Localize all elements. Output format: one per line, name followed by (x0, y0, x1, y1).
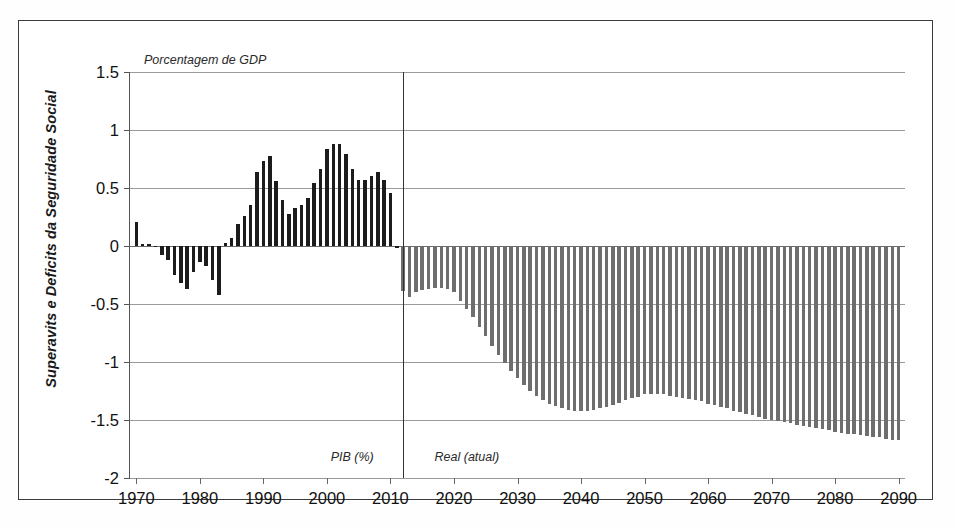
bar (897, 246, 900, 440)
bar (586, 246, 589, 411)
bar (497, 246, 500, 355)
bar (871, 246, 874, 437)
bar (440, 246, 443, 288)
x-tick-label: 2040 (563, 489, 600, 508)
bar (738, 246, 741, 412)
figure-frame: Superavits e Deficits da Seguridade Soci… (18, 20, 933, 500)
bar (147, 244, 151, 246)
bar (630, 246, 633, 398)
bar (370, 176, 374, 246)
bar (687, 246, 690, 399)
bar (617, 246, 620, 403)
bar (643, 246, 646, 394)
bar (814, 246, 817, 428)
bar (611, 246, 614, 405)
bar (274, 181, 278, 246)
y-tick-mark (124, 72, 130, 73)
x-tick-mark (327, 478, 328, 484)
y-tick-label: -0.5 (91, 295, 119, 314)
bar (459, 246, 462, 301)
x-tick-label: 2000 (309, 489, 346, 508)
bar (332, 144, 336, 246)
bar (713, 246, 716, 405)
bar (243, 216, 247, 246)
bar (446, 246, 449, 289)
bar (636, 246, 639, 397)
x-tick-label: 2050 (626, 489, 663, 508)
y-tick-label: -1.5 (91, 411, 119, 430)
figure-root: Superavits e Deficits da Seguridade Soci… (0, 0, 956, 526)
bar (744, 246, 747, 414)
x-tick-mark (263, 478, 264, 484)
x-tick-mark (708, 478, 709, 484)
bar (433, 246, 436, 288)
bar (725, 246, 728, 408)
bar (452, 246, 455, 292)
bar (789, 246, 792, 423)
bar (763, 246, 766, 419)
x-tick-mark (772, 478, 773, 484)
bar (675, 246, 678, 397)
bar (427, 246, 430, 289)
bar (878, 246, 881, 437)
bar (166, 246, 170, 260)
bar (706, 246, 709, 404)
plot-area: Porcentagem de GDP 1.510.50-0.5-1-1.5-21… (129, 72, 905, 479)
bar (840, 246, 843, 433)
y-tick-mark (124, 304, 130, 305)
x-tick-mark (899, 478, 900, 484)
bar (319, 169, 323, 246)
x-tick-mark (835, 478, 836, 484)
bar (179, 246, 183, 283)
bar (211, 246, 215, 280)
bar (154, 246, 158, 247)
bar (471, 246, 474, 317)
y-tick-mark (124, 188, 130, 189)
bar (389, 193, 393, 246)
y-tick-mark (124, 246, 130, 247)
bar (535, 246, 538, 396)
bar (198, 246, 202, 262)
bar (656, 246, 659, 394)
bar (503, 246, 506, 363)
y-tick-label: -2 (104, 469, 119, 488)
bar (808, 246, 811, 427)
bar (884, 246, 887, 439)
bar (217, 246, 221, 295)
y-tick-label: 1 (110, 121, 119, 140)
bar (338, 144, 342, 246)
bar (224, 243, 228, 246)
bar (204, 246, 208, 266)
y-tick-label: 1.5 (96, 63, 119, 82)
bar (598, 246, 601, 408)
bar (846, 246, 849, 434)
x-tick-mark (518, 478, 519, 484)
bar (522, 246, 525, 385)
bar (262, 161, 266, 246)
bar (681, 246, 684, 398)
bar (306, 198, 310, 246)
x-tick-label: 2090 (880, 489, 917, 508)
gridline (130, 188, 905, 189)
bar (484, 246, 487, 336)
y-tick-label: -1 (104, 353, 119, 372)
bar (230, 238, 234, 246)
bar (592, 246, 595, 410)
bar (395, 246, 399, 248)
bar (579, 246, 582, 411)
x-tick-label: 2080 (817, 489, 854, 508)
bar (376, 172, 380, 246)
x-tick-label: 2020 (436, 489, 473, 508)
bar (827, 246, 830, 430)
projection-label: Real (atual) (435, 450, 500, 464)
gridline (130, 130, 905, 131)
x-tick-mark (454, 478, 455, 484)
bar (287, 214, 291, 246)
bar (408, 246, 411, 297)
bar (192, 246, 196, 272)
bar (783, 246, 786, 422)
bar (859, 246, 862, 435)
bar (344, 154, 348, 246)
gridline (130, 72, 905, 73)
x-tick-label: 1990 (245, 489, 282, 508)
